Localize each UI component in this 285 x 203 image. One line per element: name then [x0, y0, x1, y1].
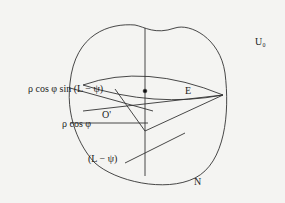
diagram: ρ cos φ sin (L − ψ) ρ cos φ (L − ψ) O' E… — [0, 0, 285, 203]
origin-label: O' — [102, 109, 111, 120]
bottom-label: N — [194, 176, 201, 187]
equator-arc — [83, 76, 223, 95]
pole-label: U₀ — [255, 36, 266, 47]
sphere-diagram: ρ cos φ sin (L − ψ) ρ cos φ (L − ψ) O' E… — [0, 0, 285, 203]
cos-term-label: ρ cos φ — [62, 118, 91, 129]
sine-term-label: ρ cos φ sin (L − ψ) — [28, 83, 103, 95]
angle-label: (L − ψ) — [88, 153, 117, 165]
center-label: E — [185, 85, 191, 96]
